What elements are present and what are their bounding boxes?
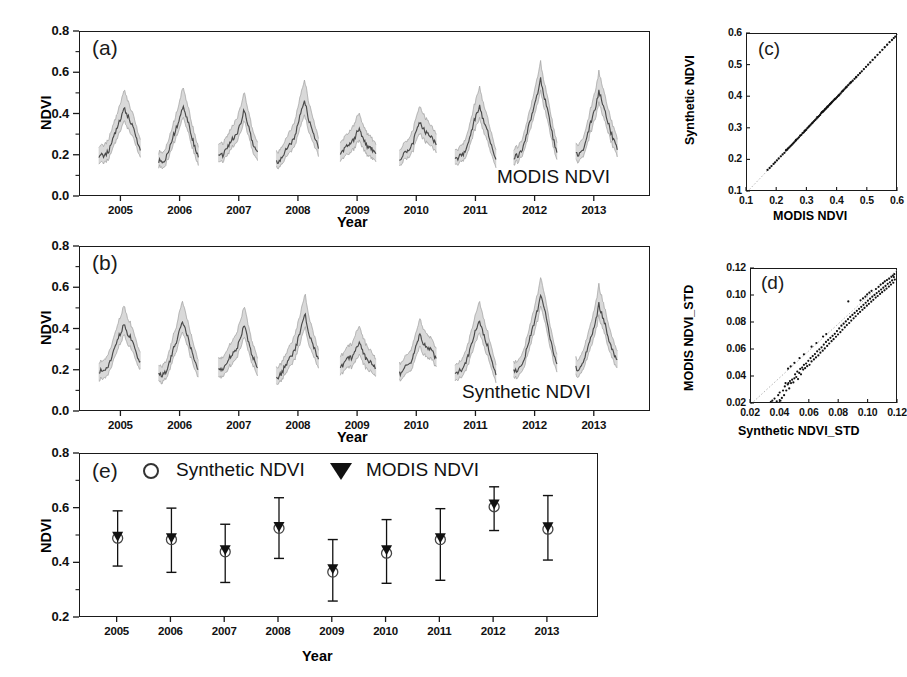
panel-d-tag: (d): [761, 272, 784, 294]
tick-label: 2009: [319, 625, 344, 637]
tick-label: 2008: [286, 204, 311, 216]
panel-c-tag: (c): [758, 38, 780, 60]
tick-label: 2007: [226, 419, 251, 431]
tick-label: 2006: [158, 625, 183, 637]
panel-c-xlabel: MODIS NDVI: [773, 209, 847, 223]
tick-label: 0.4: [728, 89, 742, 101]
tick-label: 2007: [212, 625, 237, 637]
tick-label: 2012: [522, 204, 547, 216]
panel-b-tag: (b): [92, 251, 118, 275]
panel-e-xlabel: Year: [302, 648, 333, 664]
tick-label: 2013: [581, 419, 606, 431]
tick-label: 0.3: [728, 121, 742, 133]
tick-label: 0.04: [770, 406, 790, 418]
error-bar-2007: [220, 524, 231, 582]
tick-label: 2009: [345, 419, 370, 431]
panel-c-ylabel: Synthetic NDVI: [683, 55, 697, 145]
tick-label: 0.04: [726, 369, 746, 381]
tick-label: 2011: [427, 625, 451, 637]
panel-b-xlabel: Year: [337, 429, 368, 445]
panel-d: (d) MODIS NDVI_STD Synthetic NDVI_STD 0.…: [660, 228, 904, 448]
tick-label: 0.8: [52, 238, 69, 253]
tick-label: 0.6: [52, 279, 69, 294]
tick-label: 0.12: [887, 406, 907, 418]
legend-label-synthetic-ndvi: Synthetic NDVI: [176, 459, 305, 481]
tick-label: 0.8: [52, 23, 69, 38]
tick-label: 0.0: [52, 188, 69, 203]
panel-e-tag: (e): [92, 459, 118, 483]
panel-b: (b) Synthetic NDVI NDVI Year 0.00.20.40.…: [0, 228, 660, 453]
tick-label: 2007: [226, 204, 251, 216]
tick-label: 2006: [167, 419, 192, 431]
error-bar-2012: [489, 487, 500, 531]
tick-label: 0.10: [726, 288, 746, 300]
tick-label: 2008: [266, 625, 291, 637]
error-bar-2011: [435, 509, 446, 581]
tick-label: 2005: [108, 204, 133, 216]
tick-label: 2012: [481, 625, 506, 637]
tick-label: 2012: [522, 419, 547, 431]
tick-label: 0.5: [728, 58, 742, 70]
tick-label: 2008: [286, 419, 311, 431]
tick-label: 2010: [404, 204, 429, 216]
error-bar-2006: [166, 508, 177, 572]
panel-d-xlabel: Synthetic NDVI_STD: [738, 424, 860, 438]
tick-label: 2005: [104, 625, 129, 637]
tick-label: 0.1: [739, 194, 753, 206]
tick-label: 0.12: [726, 261, 746, 273]
tick-label: 0.02: [740, 406, 760, 418]
legend-label-modis-ndvi: MODIS NDVI: [366, 459, 479, 481]
tick-label: 0.4: [52, 554, 69, 569]
tick-label: 0.10: [858, 406, 878, 418]
tick-label: 2013: [535, 625, 560, 637]
tick-label: 0.5: [860, 194, 874, 206]
tick-label: 0.2: [52, 147, 69, 162]
error-bar-2005: [112, 511, 123, 566]
tick-label: 0.3: [799, 194, 813, 206]
tick-label: 2010: [373, 625, 398, 637]
tick-label: 0.6: [728, 26, 742, 38]
error-bar-2010: [381, 520, 392, 584]
tick-label: 2011: [463, 204, 487, 216]
tick-label: 0.6: [52, 500, 69, 515]
tick-label: 0.2: [769, 194, 783, 206]
error-bar-2013: [542, 496, 553, 561]
tick-label: 0.2: [52, 609, 69, 624]
error-bar-2008: [273, 498, 284, 559]
panel-a-tag: (a): [92, 36, 118, 60]
tick-label: 0.4: [52, 106, 69, 121]
panel-e-ylabel: NDVI: [38, 518, 54, 553]
legend-marker-synthetic-ndvi: [143, 463, 159, 479]
panel-d-ylabel: MODIS NDVI_STD: [682, 285, 696, 391]
error-bar-2009: [327, 540, 338, 602]
panel-a-corner-label: MODIS NDVI: [497, 166, 610, 188]
panel-c: (c) Synthetic NDVI MODIS NDVI 0.10.20.30…: [660, 0, 904, 228]
tick-label: 0.0: [52, 403, 69, 418]
tick-label: 2005: [108, 419, 133, 431]
tick-label: 2011: [463, 419, 487, 431]
tick-label: 2013: [581, 204, 606, 216]
tick-label: 0.08: [726, 315, 746, 327]
legend-marker-modis-ndvi: [330, 463, 352, 480]
tick-label: 2010: [404, 419, 429, 431]
panel-b-corner-label: Synthetic NDVI: [462, 381, 591, 403]
panel-a: (a) MODIS NDVI NDVI Year 0.00.20.40.60.8…: [0, 0, 660, 232]
tick-label: 0.2: [728, 152, 742, 164]
tick-label: 0.8: [52, 445, 69, 460]
tick-label: 2006: [167, 204, 192, 216]
tick-label: 0.6: [890, 194, 904, 206]
tick-label: 2009: [345, 204, 370, 216]
tick-label: 0.06: [799, 406, 819, 418]
tick-label: 0.06: [726, 342, 746, 354]
tick-label: 0.4: [52, 321, 69, 336]
tick-label: 0.6: [52, 64, 69, 79]
tick-label: 0.2: [52, 362, 69, 377]
tick-label: 0.4: [830, 194, 844, 206]
tick-label: 0.08: [828, 406, 848, 418]
panel-e: (e) Synthetic NDVI MODIS NDVI NDVI Year …: [0, 445, 680, 677]
